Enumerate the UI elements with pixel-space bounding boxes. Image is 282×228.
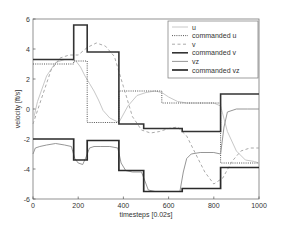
velocity-chart: 02004006008001000-6-4-20246 timesteps [0… [0, 0, 282, 228]
y-tick-label: -2 [24, 136, 30, 143]
y-axis-label: velocity [ft/s] [14, 90, 22, 129]
legend-label: commanded vz [192, 67, 240, 74]
legend-label: commanded v [192, 49, 236, 56]
x-tick-label: 200 [72, 202, 84, 209]
x-tick-label: 600 [163, 202, 175, 209]
x-tick-label: 800 [208, 202, 220, 209]
y-tick-label: 2 [26, 76, 30, 83]
legend-label: v [192, 41, 196, 48]
y-tick-label: 0 [26, 106, 30, 113]
legend-label: u [192, 24, 196, 31]
legend-label: vz [192, 58, 200, 65]
y-tick-label: 4 [26, 46, 30, 53]
x-tick-label: 1000 [251, 202, 267, 209]
y-tick-label: -6 [24, 196, 30, 203]
legend: ucommanded uvcommanded vvzcommanded vz [168, 21, 258, 78]
y-tick-label: -4 [24, 166, 30, 173]
legend-label: commanded u [192, 32, 236, 39]
y-tick-label: 6 [26, 16, 30, 23]
x-tick-label: 0 [31, 202, 35, 209]
x-tick-label: 400 [118, 202, 130, 209]
x-axis-label: timesteps [0.02s] [120, 211, 173, 219]
